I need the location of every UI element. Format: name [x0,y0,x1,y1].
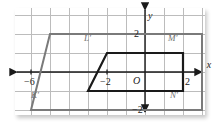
vertex-label-n-prime: N′ [170,91,178,100]
origin-label: O [133,76,140,86]
coordinate-plane-figure: x y O −6 −2 2 2 −2 L′ M′ K′ N′ [0,0,219,128]
vertex-label-l-prime: L′ [84,34,91,43]
x-tick-label-minus-2: −2 [100,77,111,87]
x-tick-label-minus-6: −6 [24,77,35,87]
x-axis-label: x [207,60,211,70]
y-tick-label-2: 2 [134,29,139,39]
vertex-label-m-prime: M′ [168,34,177,43]
y-tick-label-minus-2: −2 [132,105,143,115]
vertex-label-k-prime: K′ [31,91,39,100]
x-tick-label-2: 2 [185,77,190,87]
y-axis-label: y [148,11,152,21]
